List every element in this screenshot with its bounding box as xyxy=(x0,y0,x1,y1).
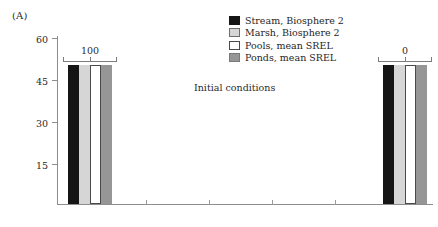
y-tick-45: 45 xyxy=(52,80,58,81)
y-tick-label: 45 xyxy=(36,75,48,86)
group-brace-0: 0 xyxy=(378,54,432,62)
brace-label: 100 xyxy=(81,45,99,56)
bar-stream-biosphere-2 xyxy=(68,65,79,204)
figure-panel-a: (A) Stream, Biosphere 2 Marsh, Biosphere… xyxy=(0,0,438,227)
bar-ponds-mean-srel xyxy=(416,65,427,204)
legend-label: Stream, Biosphere 2 xyxy=(245,15,344,26)
brace-cap-left xyxy=(378,57,379,62)
y-axis-line xyxy=(57,36,58,205)
x-tick xyxy=(209,200,210,205)
bar-marsh-biosphere-2 xyxy=(394,65,405,204)
y-tick-label: 60 xyxy=(36,33,48,44)
y-tick-15: 15 xyxy=(52,164,58,165)
bar-stream-biosphere-2 xyxy=(383,65,394,204)
legend-swatch-stream-biosphere-2 xyxy=(229,16,240,25)
brace-cap-left xyxy=(63,57,64,62)
legend-item: Stream, Biosphere 2 xyxy=(229,14,344,27)
y-tick-30: 30 xyxy=(52,122,58,123)
panel-label: (A) xyxy=(12,10,28,21)
x-axis-line xyxy=(57,204,433,205)
brace-center-nub xyxy=(405,57,406,61)
brace-label: 0 xyxy=(402,45,408,56)
brace-line xyxy=(378,61,432,62)
x-tick xyxy=(146,200,147,205)
bar-group-100 xyxy=(68,65,112,204)
brace-cap-right xyxy=(431,57,432,62)
brace-line xyxy=(63,61,117,62)
y-tick-label: 15 xyxy=(36,159,48,170)
bar-group-0 xyxy=(383,65,427,204)
bar-ponds-mean-srel xyxy=(101,65,112,204)
group-brace-100: 100 xyxy=(63,54,117,62)
plot-area: 60 45 30 15 100 xyxy=(57,36,433,205)
x-tick xyxy=(272,200,273,205)
x-tick xyxy=(335,200,336,205)
bar-marsh-biosphere-2 xyxy=(79,65,90,204)
brace-cap-right xyxy=(116,57,117,62)
y-tick-label: 30 xyxy=(36,117,48,128)
y-tick-60: 60 xyxy=(52,38,58,39)
brace-center-nub xyxy=(90,57,91,61)
bar-pools-mean-srel xyxy=(90,65,101,204)
bar-pools-mean-srel xyxy=(405,65,416,204)
